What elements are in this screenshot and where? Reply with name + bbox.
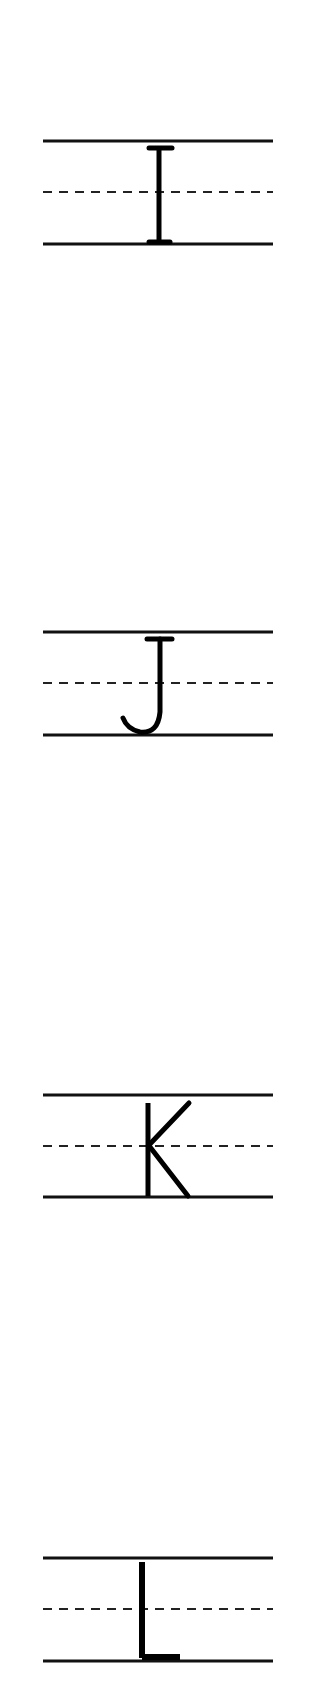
letter-row-l: L	[0, 1538, 324, 1678]
letter-l-guide	[0, 1538, 324, 1678]
letter-row-i: I	[0, 121, 324, 261]
letter-i-guide	[0, 121, 324, 261]
letter-row-j: J	[0, 612, 324, 752]
letter-row-k: K	[0, 1075, 324, 1215]
letter-k-guide	[0, 1075, 324, 1215]
letter-j-guide	[0, 612, 324, 752]
